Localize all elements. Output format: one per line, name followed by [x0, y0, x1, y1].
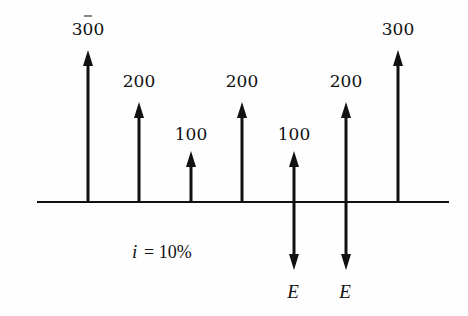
- cash-flow-label-4: 100: [278, 124, 310, 144]
- cash-flow-arrow-4: 100: [278, 124, 310, 202]
- cash-flow-label-2: 100: [175, 124, 207, 144]
- cash-flow-label-5: 200: [330, 71, 362, 91]
- outflow-arrow-5: E: [338, 202, 351, 302]
- interest-symbol: i: [132, 241, 137, 262]
- outflow-label-4: E: [286, 281, 299, 302]
- cash-flow-arrow-2: 100: [175, 124, 207, 202]
- cash-flow-arrow-5: 200: [330, 71, 362, 202]
- interest-value: = 10%: [144, 242, 192, 262]
- cash-flow-label-1: 200: [123, 71, 155, 91]
- cash-flow-arrow-1: 200: [123, 71, 155, 202]
- cash-flow-label-6: 300: [382, 19, 414, 39]
- cash-flow-diagram: 300 200 100 200 100 200: [0, 0, 468, 316]
- cash-flow-arrow-3: 200: [226, 71, 258, 202]
- cash-flow-label-0: 300: [72, 19, 104, 39]
- diagram-svg: 300 200 100 200 100 200: [0, 0, 468, 316]
- interest-rate-annotation: i = 10%: [132, 241, 192, 262]
- cash-flow-arrow-0: 300: [72, 16, 104, 202]
- cash-flow-label-3: 200: [226, 71, 258, 91]
- cash-flow-arrow-6: 300: [382, 19, 414, 202]
- outflow-label-5: E: [338, 281, 351, 302]
- outflow-arrow-4: E: [286, 202, 299, 302]
